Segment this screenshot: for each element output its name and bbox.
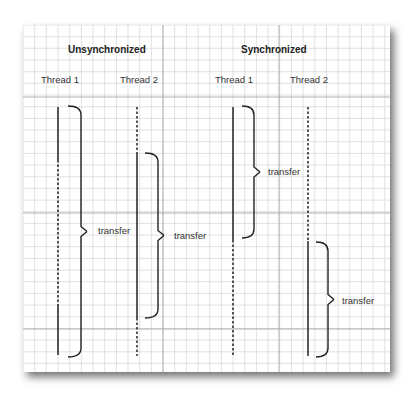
unsync-transfer-label-2: transfer [174,230,206,241]
unsync-transfer-label-1: transfer [98,225,130,236]
synchronized-title: Synchronized [241,44,307,55]
sync-thread2-label: Thread 2 [290,74,328,85]
unsynchronized-title: Unsynchronized [68,44,146,55]
sync-transfer-label-2: transfer [342,295,374,306]
unsync-thread1-label: Thread 1 [41,74,79,85]
unsync-thread2-label: Thread 2 [120,74,158,85]
sync-thread1-label: Thread 1 [215,74,253,85]
sync-transfer-label-1: transfer [268,166,300,177]
